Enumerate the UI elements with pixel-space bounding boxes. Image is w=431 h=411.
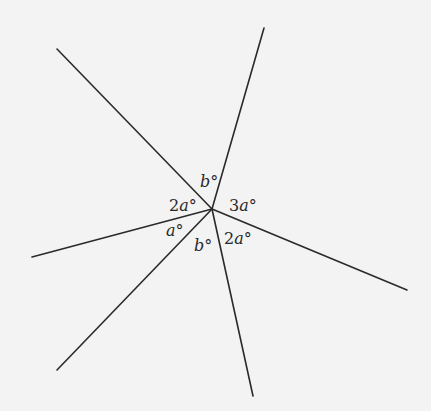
- angle-label-right: 3a°: [229, 196, 257, 215]
- angle-label-upper-left: 2a°: [169, 196, 197, 215]
- ray-upper-left: [57, 49, 212, 209]
- angle-diagram: b° 2a° 3a° a° b° 2a°: [0, 0, 431, 411]
- ray-right: [212, 209, 407, 290]
- angle-label-left-lower: a°: [166, 221, 184, 240]
- ray-lower-left: [57, 209, 212, 370]
- angle-label-lower-right: 2a°: [224, 229, 252, 248]
- angle-label-top: b°: [200, 172, 218, 191]
- rays-group: [32, 28, 407, 396]
- angle-label-bottom: b°: [194, 236, 212, 255]
- ray-left: [32, 209, 212, 257]
- ray-top: [212, 28, 264, 209]
